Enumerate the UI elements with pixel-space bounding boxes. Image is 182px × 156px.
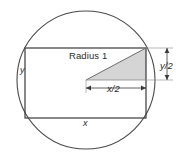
diagram-canvas: [0, 0, 182, 156]
radius-label: Radius 1: [69, 51, 107, 61]
half-height-label: y/2: [160, 61, 173, 71]
width-label: x: [83, 119, 88, 128]
geometry-figure: Radius 1 y/2 x/2 y x: [0, 0, 182, 156]
height-label: y: [20, 66, 25, 75]
half-width-label: x/2: [107, 84, 120, 94]
